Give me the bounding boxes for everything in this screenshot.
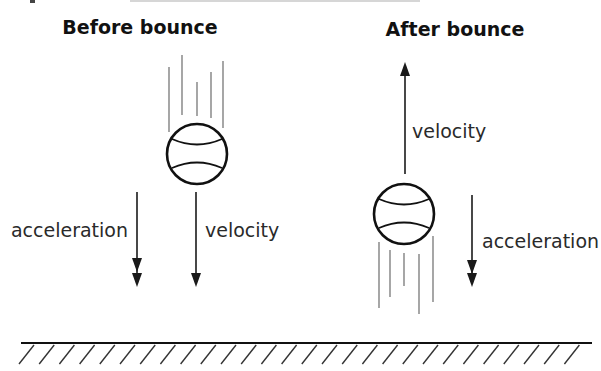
ball-icon <box>374 184 434 244</box>
after-bounce-panel: After bounce velocity acceleration <box>374 18 599 314</box>
velocity-label: velocity <box>205 219 279 241</box>
motion-lines-icon <box>169 55 223 132</box>
after-bounce-title: After bounce <box>386 18 525 40</box>
velocity-arrow-up-icon <box>400 62 410 174</box>
motion-lines-icon <box>379 236 433 314</box>
acceleration-label: acceleration <box>11 219 128 241</box>
acceleration-arrow-icon <box>467 195 477 287</box>
acceleration-arrow-icon <box>132 192 142 287</box>
ground-surface <box>19 343 592 364</box>
velocity-label: velocity <box>412 120 486 142</box>
ground-hatching <box>19 345 579 364</box>
acceleration-label: acceleration <box>482 230 599 252</box>
before-bounce-panel: Before bounce acceleration velocity <box>11 16 279 287</box>
cropped-text-fragment <box>30 0 420 3</box>
before-bounce-title: Before bounce <box>62 16 217 38</box>
bounce-diagram: Before bounce acceleration velocity Afte… <box>0 0 601 371</box>
velocity-arrow-icon <box>191 192 201 287</box>
ball-icon <box>167 124 227 184</box>
